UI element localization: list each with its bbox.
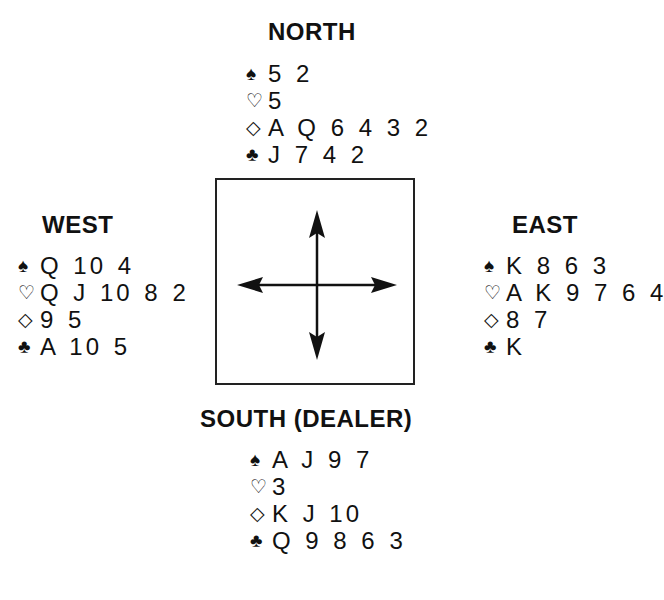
west-clubs-row: ♣ A 10 5: [18, 333, 189, 360]
east-diamonds-row: ◇ 8 7: [484, 306, 664, 333]
west-diamonds: 9 5: [40, 306, 84, 333]
heart-icon: ♡: [18, 279, 40, 306]
heart-icon: ♡: [484, 279, 506, 306]
heart-icon: ♡: [246, 87, 268, 114]
east-clubs-row: ♣ K: [484, 333, 664, 360]
east-hearts-row: ♡ A K 9 7 6 4: [484, 279, 664, 306]
east-clubs: K: [506, 333, 525, 360]
south-spades: A J 9 7: [272, 446, 372, 473]
north-spades-row: ♠ 5 2: [246, 60, 431, 87]
east-hearts: A K 9 7 6 4: [506, 279, 664, 306]
compass-box: [215, 178, 415, 385]
south-hearts: 3: [272, 473, 288, 500]
west-diamonds-row: ◇ 9 5: [18, 306, 189, 333]
west-hearts-row: ♡ Q J 10 8 2: [18, 279, 189, 306]
diamond-icon: ◇: [18, 306, 40, 333]
west-hand: ♠ Q 10 4 ♡ Q J 10 8 2 ◇ 9 5 ♣ A 10 5: [18, 252, 189, 360]
south-hearts-row: ♡ 3: [250, 473, 406, 500]
south-diamonds: K J 10: [272, 500, 362, 527]
east-label: EAST: [512, 211, 578, 239]
north-hand: ♠ 5 2 ♡ 5 ◇ A Q 6 4 3 2 ♣ J 7 4 2: [246, 60, 431, 168]
east-diamonds: 8 7: [506, 306, 550, 333]
north-label: NORTH: [268, 18, 356, 46]
spade-icon: ♠: [250, 446, 272, 473]
north-diamonds-row: ◇ A Q 6 4 3 2: [246, 114, 431, 141]
east-spades-row: ♠ K 8 6 3: [484, 252, 664, 279]
west-clubs: A 10 5: [40, 333, 130, 360]
south-clubs: Q 9 8 6 3: [272, 527, 406, 554]
club-icon: ♣: [246, 141, 268, 168]
north-hearts: 5: [268, 87, 284, 114]
south-clubs-row: ♣ Q 9 8 6 3: [250, 527, 406, 554]
diamond-icon: ◇: [250, 500, 272, 527]
east-hand: ♠ K 8 6 3 ♡ A K 9 7 6 4 ◇ 8 7 ♣ K: [484, 252, 664, 360]
south-diamonds-row: ◇ K J 10: [250, 500, 406, 527]
spade-icon: ♠: [18, 252, 40, 279]
west-hearts: Q J 10 8 2: [40, 279, 189, 306]
south-spades-row: ♠ A J 9 7: [250, 446, 406, 473]
north-clubs: J 7 4 2: [268, 141, 367, 168]
west-spades: Q 10 4: [40, 252, 134, 279]
club-icon: ♣: [484, 333, 506, 360]
diamond-icon: ◇: [484, 306, 506, 333]
east-spades: K 8 6 3: [506, 252, 609, 279]
south-hand: ♠ A J 9 7 ♡ 3 ◇ K J 10 ♣ Q 9 8 6 3: [250, 446, 406, 554]
diamond-icon: ◇: [246, 114, 268, 141]
heart-icon: ♡: [250, 473, 272, 500]
north-clubs-row: ♣ J 7 4 2: [246, 141, 431, 168]
club-icon: ♣: [18, 333, 40, 360]
north-diamonds: A Q 6 4 3 2: [268, 114, 431, 141]
west-label: WEST: [42, 211, 113, 239]
spade-icon: ♠: [484, 252, 506, 279]
north-hearts-row: ♡ 5: [246, 87, 431, 114]
south-label: SOUTH (DEALER): [200, 405, 412, 433]
west-spades-row: ♠ Q 10 4: [18, 252, 189, 279]
north-spades: 5 2: [268, 60, 312, 87]
club-icon: ♣: [250, 527, 272, 554]
spade-icon: ♠: [246, 60, 268, 87]
compass-arrows-icon: [217, 180, 413, 383]
